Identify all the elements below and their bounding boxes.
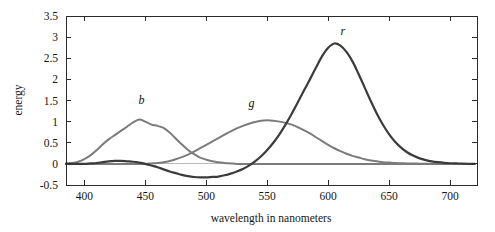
y-tick-label-1.5: 1.5 [44,95,59,107]
rgb-color-matching-function-chart: 400450500550600650700 -0.500.511.522.533… [0,0,495,232]
curve-series-group [66,43,475,177]
plot-border [66,16,477,185]
y-tick-label-1: 1 [52,116,58,128]
series-label-b: b [139,93,145,107]
y-tick-label-3: 3 [52,31,58,43]
x-axis-tick-labels: 400450500550600650700 [76,190,459,202]
x-tick-label-400: 400 [76,190,94,202]
y-axis-tick-labels: -0.500.511.522.533.5 [40,10,58,191]
series-inline-labels: bgr [139,24,346,111]
x-tick-label-450: 450 [137,190,155,202]
x-tick-label-600: 600 [320,190,338,202]
y-tick-label-3.5: 3.5 [44,10,59,22]
plot-frame [66,16,477,185]
y-tick-label-0: 0 [52,158,58,170]
curve-b [66,120,475,164]
series-label-g: g [248,96,254,110]
x-axis-title: wavelength in nanometers [211,212,332,225]
y-tick-label--0.5: -0.5 [40,179,58,191]
x-tick-label-500: 500 [198,190,216,202]
chart-figure: 400450500550600650700 -0.500.511.522.533… [0,0,495,232]
y-tick-label-2.5: 2.5 [44,52,59,64]
x-tick-label-550: 550 [259,190,277,202]
y-tick-label-2: 2 [52,73,58,85]
y-tick-label-0.5: 0.5 [44,137,59,149]
series-label-r: r [341,24,346,38]
curve-r [66,43,475,177]
x-tick-label-650: 650 [381,190,399,202]
x-tick-label-700: 700 [442,190,460,202]
y-axis-title: energy [12,84,25,115]
